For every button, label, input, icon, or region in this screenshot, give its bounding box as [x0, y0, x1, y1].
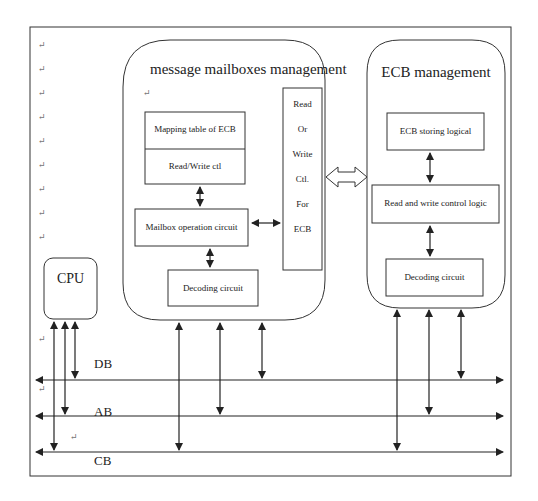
rw-for-ecb-2: Write — [283, 149, 322, 159]
paragraph-mark: ↵ — [38, 88, 46, 98]
ecb-storing-label: ECB storing logical — [387, 126, 484, 136]
rw-for-ecb-4: For — [283, 199, 322, 209]
rw-for-ecb-0: Read — [283, 99, 322, 109]
rw-for-ecb-5: ECB — [283, 224, 322, 234]
paragraph-mark: ↵ — [38, 64, 46, 74]
paragraph-mark: ↵ — [143, 88, 151, 98]
ecb-rw-logic-label: Read and write control logic — [372, 198, 499, 208]
cpu-box — [44, 258, 97, 319]
ecb-decoding-label: Decoding circuit — [386, 272, 483, 282]
mailbox-decoding-label: Decoding circuit — [168, 283, 258, 293]
rw-for-ecb-1: Or — [283, 124, 322, 134]
ecb-group-title: ECB management — [367, 64, 505, 81]
paragraph-mark: ↵ — [38, 136, 46, 146]
mailbox-op-label: Mailbox operation circuit — [135, 222, 248, 232]
mapping-box — [145, 112, 245, 184]
bidirectional-hollow-arrow-icon — [326, 167, 367, 187]
mailbox-group-title: message mailboxes management — [150, 61, 347, 78]
paragraph-mark: ↵ — [38, 112, 46, 122]
db-label: DB — [94, 356, 112, 372]
paragraph-mark: ↵ — [38, 208, 46, 218]
cb-label: CB — [94, 453, 111, 469]
paragraph-mark: ↵ — [38, 40, 46, 50]
cpu-label: CPU — [57, 271, 84, 287]
paragraph-mark: ↵ — [38, 232, 46, 242]
rw-ctl-label: Read/Write ctl — [145, 161, 245, 171]
paragraph-mark: ↵ — [38, 160, 46, 170]
mapping-table-label: Mapping table of ECB — [145, 124, 245, 134]
paragraph-mark: ↵ — [38, 384, 46, 394]
paragraph-mark: ↵ — [38, 334, 46, 344]
paragraph-mark: ↵ — [38, 184, 46, 194]
paragraph-mark: ↵ — [70, 432, 78, 442]
ab-label: AB — [94, 404, 112, 420]
rw-for-ecb-3: Ctl. — [283, 174, 322, 184]
